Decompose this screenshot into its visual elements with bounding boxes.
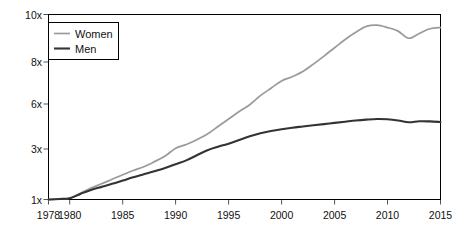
x-tick-label-8: 2015	[429, 210, 452, 221]
legend-label-women: Women	[75, 28, 113, 39]
y-tick-label-0: 1x	[4, 194, 42, 205]
x-tick-label-2: 1985	[111, 210, 134, 221]
x-tick-label-0: 1978	[37, 210, 60, 221]
x-tick-label-6: 2005	[323, 210, 346, 221]
series-line-men	[49, 119, 441, 200]
x-tick-label-4: 1995	[217, 210, 240, 221]
y-tick-label-4: 10x	[4, 9, 42, 20]
y-tick-label-1: 3x	[4, 144, 42, 155]
line-chart: 1x3x6x8x10x 1978198019851990199520002005…	[0, 0, 467, 238]
y-tick-label-2: 6x	[4, 99, 42, 110]
chart-plot-area	[0, 0, 467, 238]
x-tick-label-7: 2010	[376, 210, 399, 221]
x-tick-label-3: 1990	[164, 210, 187, 221]
x-tick-label-1: 1980	[58, 210, 81, 221]
legend-label-men: Men	[75, 43, 96, 54]
y-tick-label-3: 8x	[4, 57, 42, 68]
x-tick-label-5: 2000	[270, 210, 293, 221]
